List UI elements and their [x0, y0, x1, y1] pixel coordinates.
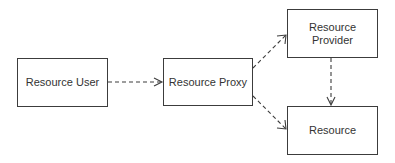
node-label: Resource Provider [309, 21, 356, 47]
edge-proxy-to-resource [253, 96, 286, 129]
node-resource-provider: Resource Provider [287, 9, 378, 58]
node-resource-proxy: Resource Proxy [163, 58, 253, 106]
node-label: Resource [309, 124, 356, 137]
edge-proxy-to-provider [253, 35, 286, 68]
diagram-canvas: Resource User Resource Proxy Resource Pr… [0, 0, 395, 163]
node-label: Resource Proxy [169, 76, 247, 89]
node-label: Resource User [26, 76, 99, 89]
node-resource-user: Resource User [17, 58, 108, 107]
node-resource: Resource [287, 106, 378, 155]
